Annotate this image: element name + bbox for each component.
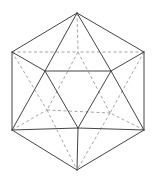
- visible-edge: [111, 71, 144, 130]
- icosahedron-diagram: [0, 0, 153, 181]
- visible-edge: [12, 13, 77, 52]
- visible-edge: [77, 13, 111, 71]
- visible-edge: [111, 52, 144, 71]
- visible-edge: [78, 128, 144, 130]
- visible-edge: [77, 13, 144, 52]
- visible-edge: [77, 130, 144, 170]
- visible-edge: [77, 128, 78, 170]
- visible-edge: [45, 71, 78, 128]
- visible-edge: [12, 71, 45, 130]
- visible-edge: [12, 128, 78, 130]
- hidden-edge: [110, 52, 144, 113]
- hidden-edge: [77, 13, 78, 52]
- hidden-edge: [12, 52, 47, 110]
- visible-edge: [12, 52, 45, 71]
- hidden-edge: [47, 110, 110, 113]
